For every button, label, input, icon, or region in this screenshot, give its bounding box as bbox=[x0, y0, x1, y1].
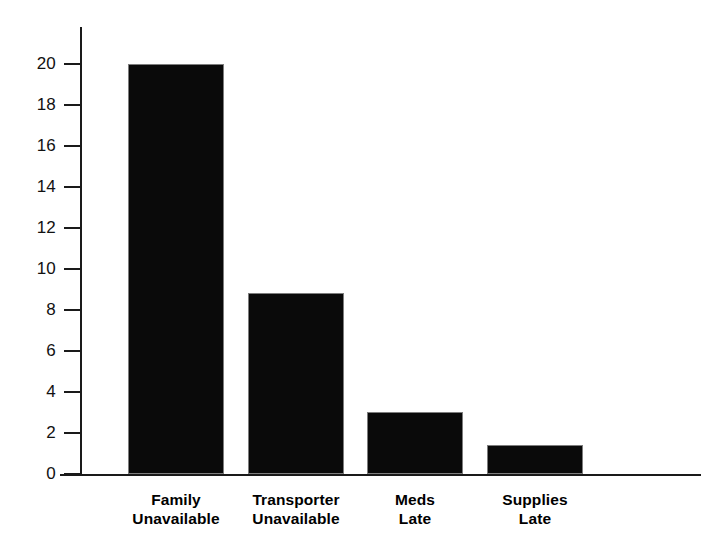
x-axis-label-transporter-unavailable: Transporter Unavailable bbox=[228, 490, 364, 528]
x-axis-label-meds-late: Meds Late bbox=[347, 490, 483, 528]
x-label-line-1: Transporter bbox=[228, 490, 364, 509]
x-label-line-2: Unavailable bbox=[108, 509, 244, 528]
bars-layer bbox=[0, 0, 728, 556]
x-axis-label-supplies-late: Supplies Late bbox=[467, 490, 603, 528]
bar-family-unavailable[interactable] bbox=[128, 64, 224, 475]
bar-meds-late[interactable] bbox=[367, 412, 463, 474]
bar-chart: 0 2 4 6 8 10 12 14 16 18 20 bbox=[0, 0, 728, 556]
x-label-line-1: Family bbox=[108, 490, 244, 509]
x-label-line-1: Supplies bbox=[467, 490, 603, 509]
bar-supplies-late[interactable] bbox=[487, 445, 583, 474]
x-label-line-1: Meds bbox=[347, 490, 483, 509]
x-axis-label-family-unavailable: Family Unavailable bbox=[108, 490, 244, 528]
x-label-line-2: Late bbox=[467, 509, 603, 528]
x-label-line-2: Late bbox=[347, 509, 483, 528]
bar-transporter-unavailable[interactable] bbox=[248, 293, 344, 474]
x-label-line-2: Unavailable bbox=[228, 509, 364, 528]
